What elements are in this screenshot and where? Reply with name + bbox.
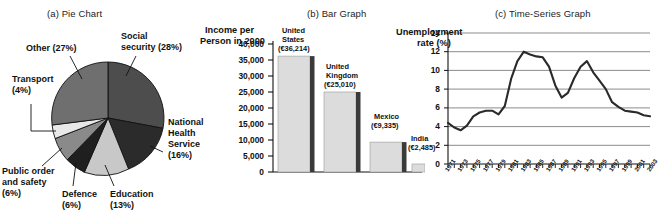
svg-text:2001: 2001 bbox=[633, 158, 646, 173]
time-series-panel: (c) Time-Series Graph bbox=[420, 0, 662, 218]
time-series-ytick-12: 12 bbox=[420, 47, 440, 56]
svg-text:1975: 1975 bbox=[469, 158, 482, 173]
bar-ytick-25000: 25,000 bbox=[218, 88, 264, 97]
time-series-gridlines bbox=[448, 33, 650, 145]
pie-label-nhs-line4: (16%) bbox=[168, 150, 192, 161]
svg-text:1991: 1991 bbox=[570, 158, 583, 173]
bar-value-mexico: (€9,335) bbox=[371, 121, 399, 130]
svg-text:1987: 1987 bbox=[545, 158, 558, 173]
pie-label-public-order-line2: and safety bbox=[2, 177, 47, 188]
time-series-line-unemployment-rate bbox=[448, 52, 650, 131]
svg-text:1979: 1979 bbox=[494, 158, 507, 173]
pie-label-social-security-line2: security (28%) bbox=[121, 42, 182, 53]
bar-ytick-10000: 10,000 bbox=[218, 136, 264, 145]
svg-text:1971: 1971 bbox=[444, 158, 457, 173]
bar-value-united-states: (€36,214) bbox=[278, 44, 310, 53]
pie-label-transport-line1: Transport bbox=[12, 74, 54, 85]
bar-ytick-20000: 20,000 bbox=[218, 104, 264, 113]
svg-text:1981: 1981 bbox=[507, 158, 520, 173]
time-series-ytick-6: 6 bbox=[420, 103, 440, 112]
svg-text:1977: 1977 bbox=[482, 158, 495, 173]
bar-ytick-5000: 5,000 bbox=[218, 152, 264, 161]
bar-mexico bbox=[370, 142, 402, 172]
bar-ytick-35000: 35,000 bbox=[218, 56, 264, 65]
pie-label-education-line1: Education bbox=[110, 189, 154, 200]
time-series-ytick-4: 4 bbox=[420, 122, 440, 131]
bar-ytick-40000: 40,000 bbox=[218, 40, 264, 49]
pie-label-social-security-line1: Social bbox=[121, 31, 148, 42]
pie-label-nhs-line1: National bbox=[168, 117, 204, 128]
bar-graph-panel: (b) Bar Graph bbox=[200, 0, 425, 218]
pie-label-public-order-line3: (6%) bbox=[2, 188, 21, 199]
pie-slice-social-security bbox=[108, 62, 164, 128]
svg-text:1973: 1973 bbox=[457, 158, 470, 173]
svg-text:1997: 1997 bbox=[608, 158, 621, 173]
pie-label-nhs-line3: Service bbox=[168, 139, 200, 150]
svg-text:2003: 2003 bbox=[646, 158, 659, 173]
bar-shadow-united-kingdom bbox=[356, 92, 361, 172]
pie-leader-line-public-order bbox=[42, 148, 62, 166]
svg-text:1999: 1999 bbox=[621, 158, 634, 173]
bar-ytick-0: 0 bbox=[218, 168, 264, 177]
bar-label-united-kingdom-line1: United bbox=[326, 62, 349, 71]
time-series-ytick-10: 10 bbox=[420, 66, 440, 75]
time-series-y-tick-marks bbox=[444, 33, 448, 164]
time-series-ytick-14: 14 bbox=[420, 29, 440, 38]
pie-label-other: Other (27%) bbox=[26, 43, 77, 54]
bar-shadow-united-states bbox=[310, 56, 315, 172]
pie-slice-other bbox=[52, 62, 108, 125]
svg-text:1995: 1995 bbox=[595, 158, 608, 173]
pie-label-defence-line2: (6%) bbox=[62, 200, 81, 211]
bar-label-united-states-line1: United bbox=[282, 26, 305, 35]
bar-united-states bbox=[278, 56, 310, 172]
svg-text:1993: 1993 bbox=[583, 158, 596, 173]
bar-shadow-mexico bbox=[402, 142, 407, 172]
pie-label-transport-line2: (4%) bbox=[12, 85, 31, 96]
pie-label-public-order-line1: Public order bbox=[2, 166, 55, 177]
pie-label-defence-line1: Defence bbox=[62, 189, 97, 200]
bar-axis-title-line1: Income per bbox=[205, 25, 254, 36]
bar-value-united-kingdom: (€25,010) bbox=[324, 80, 356, 89]
bar-united-kingdom bbox=[324, 92, 356, 172]
time-series-x-tick-labels: 1971 1973 1975 1977 1979 1981 1983 1985 … bbox=[444, 158, 659, 173]
figure-container: (a) Pie Chart Social bbox=[0, 0, 662, 218]
svg-text:1989: 1989 bbox=[558, 158, 571, 173]
bar-label-united-states-line2: States bbox=[282, 35, 304, 44]
bar-ytick-30000: 30,000 bbox=[218, 72, 264, 81]
pie-label-education-line2: (13%) bbox=[110, 200, 134, 211]
pie-label-nhs-line2: Health bbox=[168, 128, 196, 139]
bar-y-tick-marks bbox=[268, 44, 273, 172]
time-series-ytick-8: 8 bbox=[420, 85, 440, 94]
svg-text:1983: 1983 bbox=[520, 158, 533, 173]
time-series-ytick-2: 2 bbox=[420, 141, 440, 150]
bar-label-united-kingdom-line2: Kingdom bbox=[326, 71, 358, 80]
bar-label-mexico: Mexico bbox=[374, 112, 399, 121]
pie-chart-panel: (a) Pie Chart Social bbox=[0, 0, 210, 218]
bar-ytick-15000: 15,000 bbox=[218, 120, 264, 129]
svg-text:1985: 1985 bbox=[532, 158, 545, 173]
time-series-ytick-0: 0 bbox=[420, 160, 440, 169]
